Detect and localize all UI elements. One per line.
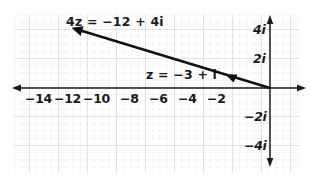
vector-z-label: z = −3 + i — [146, 69, 217, 82]
tick-label-real-minus2: −2 — [207, 93, 226, 106]
tick-label-imaginary-4i: 4i — [253, 24, 265, 37]
vector-4z-label: 4z = −12 + 4i — [66, 16, 164, 29]
real-axis-right-arrowhead — [297, 85, 306, 92]
tick-label-real-minus8: −8 — [120, 93, 139, 106]
tick-label-real-minus12: −12 — [54, 93, 81, 106]
vector-4z-label-text: 4z = −12 + 4i — [66, 14, 164, 29]
tick-label-imaginary-2i: 2i — [253, 53, 265, 66]
tick-label-imaginary-minus2i: −2i — [244, 111, 267, 124]
tick-label-imaginary-minus4i: −4i — [244, 140, 267, 153]
tick-label-real-minus4: −4 — [178, 93, 197, 106]
vector-z-label-text: z = −3 + i — [146, 67, 217, 82]
tick-label-real-minus14: −14 — [25, 93, 52, 106]
complex-plane-figure: 4z = −12 + 4i z = −3 + i −14 −12 −10 −8 … — [0, 0, 310, 176]
tick-label-real-minus10: −10 — [83, 93, 110, 106]
tick-label-real-minus6: −6 — [149, 93, 168, 106]
